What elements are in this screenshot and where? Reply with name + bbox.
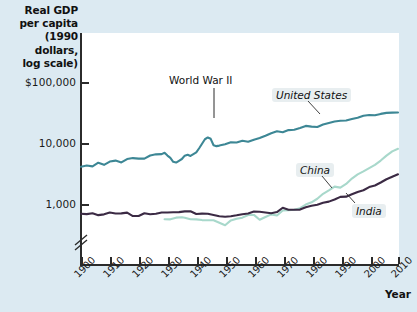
- chart-figure: Real GDP per capita (1990 dollars, log s…: [0, 0, 417, 312]
- series-label-leaders: [0, 0, 417, 312]
